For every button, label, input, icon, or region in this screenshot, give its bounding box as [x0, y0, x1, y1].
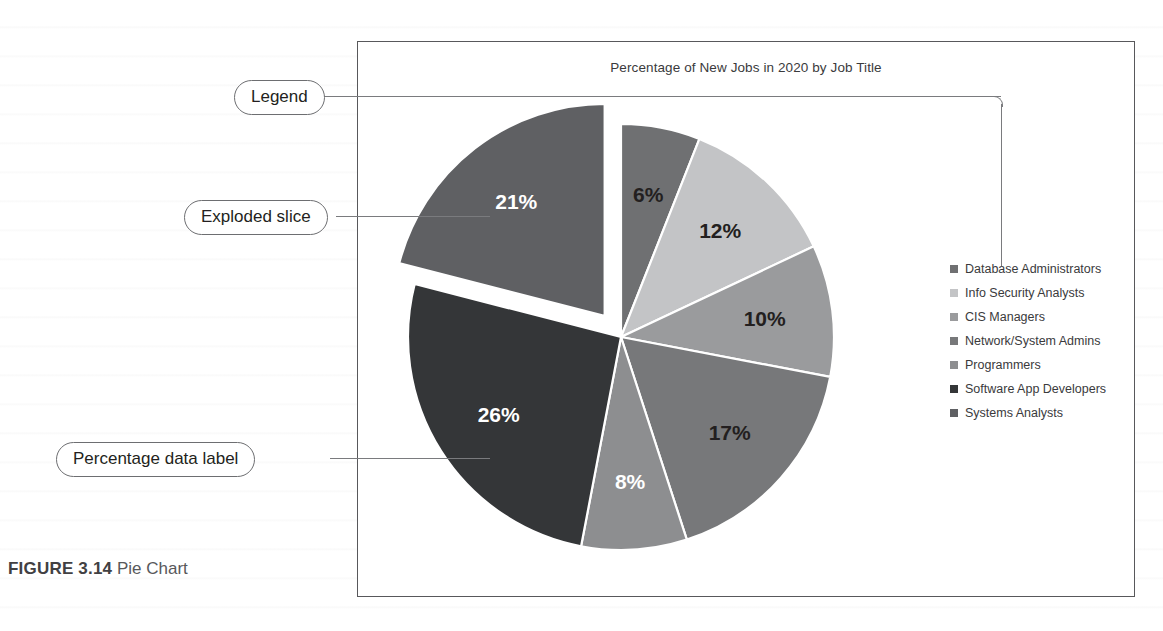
legend-swatch-icon	[950, 385, 958, 393]
legend-item-label: CIS Managers	[965, 310, 1045, 324]
legend-item[interactable]: Systems Analysts	[950, 401, 1140, 425]
callout-legend[interactable]: Legend	[234, 80, 325, 115]
pie-slice-data-label: 8%	[615, 470, 646, 493]
legend-item-label: Software App Developers	[965, 382, 1106, 396]
legend-swatch-icon	[950, 361, 958, 369]
legend-item-label: Database Administrators	[965, 262, 1101, 276]
legend-item-label: Programmers	[965, 358, 1041, 372]
pie-slice-data-label: 26%	[478, 403, 520, 426]
chart-legend: Database AdministratorsInfo Security Ana…	[950, 257, 1140, 425]
pie-slice-data-label: 12%	[699, 219, 741, 242]
figure-caption: FIGURE 3.14 Pie Chart	[8, 559, 188, 579]
legend-swatch-icon	[950, 313, 958, 321]
legend-item[interactable]: Database Administrators	[950, 257, 1140, 281]
legend-swatch-icon	[950, 409, 958, 417]
legend-item[interactable]: Software App Developers	[950, 377, 1140, 401]
legend-leader-horizontal	[303, 96, 1001, 97]
figure-caption-text: Pie Chart	[117, 559, 188, 578]
legend-item[interactable]: CIS Managers	[950, 305, 1140, 329]
pie-slice-data-label: 10%	[744, 307, 786, 330]
legend-item[interactable]: Network/System Admins	[950, 329, 1140, 353]
pie-chart-svg: 6%12%10%17%8%26%21%	[373, 87, 903, 587]
pie-slice-data-label: 6%	[633, 183, 664, 206]
exploded-slice-leader	[336, 216, 490, 217]
legend-swatch-icon	[950, 265, 958, 273]
percentage-label-leader	[330, 458, 490, 459]
legend-leader-vertical	[1001, 104, 1002, 266]
legend-item-label: Systems Analysts	[965, 406, 1063, 420]
legend-swatch-icon	[950, 337, 958, 345]
pie-slice-data-label: 21%	[495, 190, 537, 213]
legend-item[interactable]: Info Security Analysts	[950, 281, 1140, 305]
pie-slice-data-label: 17%	[709, 421, 751, 444]
chart-frame: Percentage of New Jobs in 2020 by Job Ti…	[357, 41, 1135, 597]
legend-item-label: Info Security Analysts	[965, 286, 1085, 300]
legend-item-label: Network/System Admins	[965, 334, 1100, 348]
chart-title: Percentage of New Jobs in 2020 by Job Ti…	[358, 60, 1134, 75]
callout-exploded-slice[interactable]: Exploded slice	[184, 200, 328, 235]
legend-item[interactable]: Programmers	[950, 353, 1140, 377]
legend-swatch-icon	[950, 289, 958, 297]
figure-number: FIGURE 3.14	[8, 559, 112, 578]
callout-percentage-data-label[interactable]: Percentage data label	[56, 442, 255, 477]
pie-chart: 6%12%10%17%8%26%21%	[373, 87, 903, 587]
